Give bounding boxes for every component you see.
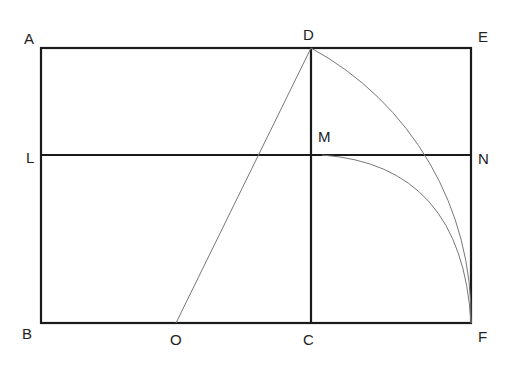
label-n: N [478,150,489,167]
label-f: F [478,328,487,345]
label-a: A [24,30,34,47]
label-l: L [26,149,34,166]
label-b: B [22,325,32,342]
label-e: E [478,28,488,45]
outer-rectangle [41,48,471,323]
label-o: O [170,331,182,348]
label-d: D [303,26,314,43]
segment-od [176,48,311,323]
label-m: M [318,128,331,145]
label-c: C [303,331,314,348]
diagram-canvas: A D E M L N B O C F [0,0,516,369]
arc-df [311,48,471,323]
arc-mf [322,155,471,323]
